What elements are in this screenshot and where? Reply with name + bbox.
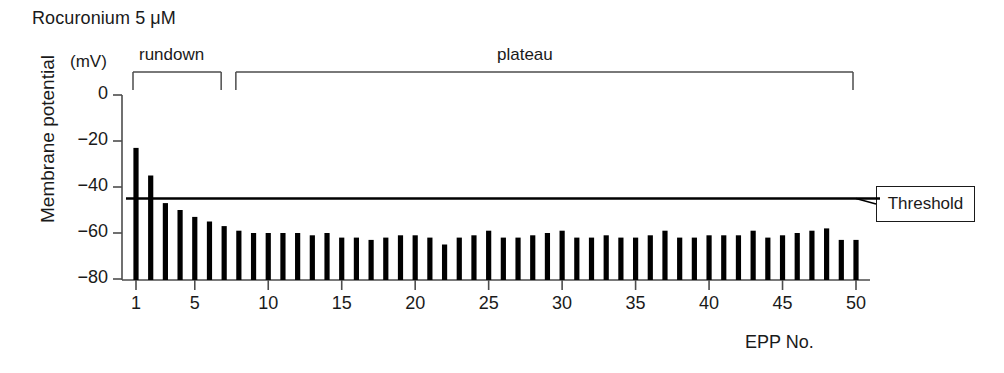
bar — [222, 226, 227, 280]
bar — [398, 235, 403, 280]
bar — [177, 210, 182, 280]
bar — [354, 238, 359, 280]
bar-series — [133, 148, 858, 280]
bar — [457, 238, 462, 280]
bar — [442, 245, 447, 281]
bar — [515, 238, 520, 280]
bar — [369, 240, 374, 280]
bar — [339, 238, 344, 280]
plot-area — [0, 0, 1004, 373]
bar — [560, 231, 565, 280]
bar — [677, 238, 682, 280]
x-tick-label: 25 — [464, 293, 514, 314]
phase-bracket — [236, 72, 853, 90]
x-tick-label: 10 — [243, 293, 293, 314]
bar — [236, 231, 241, 280]
bar — [471, 235, 476, 280]
bar — [148, 176, 153, 281]
bar — [251, 233, 256, 280]
bar — [853, 240, 858, 280]
y-tick-label: −60 — [44, 221, 108, 242]
bar — [648, 235, 653, 280]
threshold-line — [126, 199, 880, 205]
bar — [207, 222, 212, 281]
x-tick-label: 50 — [831, 293, 881, 314]
bar — [604, 235, 609, 280]
bar — [574, 238, 579, 280]
bar — [310, 235, 315, 280]
bar — [589, 238, 594, 280]
bar — [780, 235, 785, 280]
bar — [751, 231, 756, 280]
x-tick-label: 15 — [317, 293, 367, 314]
bar — [427, 238, 432, 280]
bar — [133, 148, 138, 280]
epp-amplitude-chart: Rocuronium 5 μM (mV) rundown plateau Mem… — [0, 0, 1004, 373]
bar — [413, 235, 418, 280]
bar — [662, 231, 667, 280]
x-tick-label: 5 — [170, 293, 220, 314]
y-tick-label: −80 — [44, 267, 108, 288]
bar — [486, 231, 491, 280]
bar — [545, 233, 550, 280]
y-tick-label: −40 — [44, 175, 108, 196]
bar — [633, 238, 638, 280]
bar — [192, 217, 197, 280]
x-tick-label: 20 — [390, 293, 440, 314]
bar — [692, 238, 697, 280]
phase-brackets — [133, 72, 853, 90]
bar — [266, 233, 271, 280]
bar — [383, 238, 388, 280]
bar — [324, 233, 329, 280]
x-tick-label: 40 — [684, 293, 734, 314]
x-tick-label: 35 — [611, 293, 661, 314]
x-tick-label: 1 — [111, 293, 161, 314]
bar — [736, 235, 741, 280]
phase-bracket — [133, 72, 221, 90]
bar — [618, 238, 623, 280]
y-tick-label: 0 — [44, 83, 108, 104]
y-tick-label: −20 — [44, 129, 108, 150]
bar — [706, 235, 711, 280]
bar — [765, 238, 770, 280]
bar — [824, 228, 829, 280]
bar — [839, 240, 844, 280]
x-tick-label: 45 — [758, 293, 808, 314]
x-tick-label: 30 — [537, 293, 587, 314]
bar — [280, 233, 285, 280]
bar — [721, 235, 726, 280]
bar — [530, 235, 535, 280]
bar — [501, 238, 506, 280]
bar — [295, 233, 300, 280]
bar — [809, 231, 814, 280]
bar — [795, 233, 800, 280]
bar — [163, 203, 168, 280]
